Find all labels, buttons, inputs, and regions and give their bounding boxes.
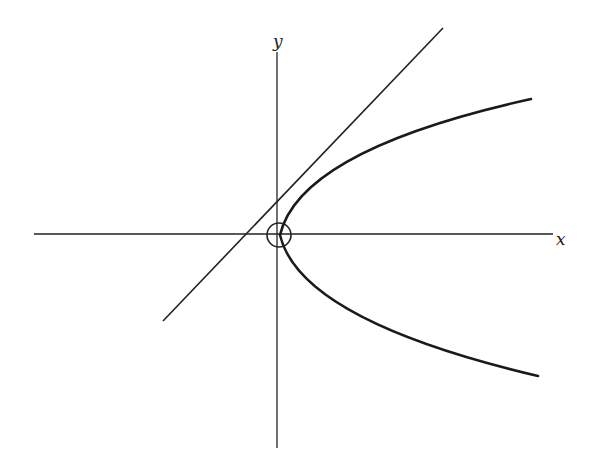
y-axis-label: y	[272, 31, 283, 51]
straight-line	[163, 28, 443, 321]
diagram-canvas: y x	[0, 0, 590, 470]
x-axis-label: x	[556, 229, 566, 249]
diagram-svg: y x	[0, 0, 590, 470]
parabola-curve	[280, 99, 538, 376]
